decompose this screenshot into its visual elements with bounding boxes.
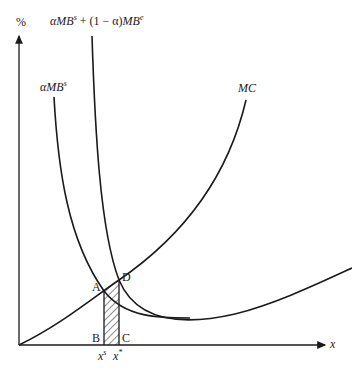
diagram-graphics [0,0,352,374]
combined-mid-text: + (1 − α) [77,14,123,28]
welfare-diagram: % αMBs + (1 − α)MBe αMBs MC A D B C xs x… [0,0,352,374]
mb-text-2: MB [123,14,140,28]
private-mb-curve-label: αMBs [40,81,67,93]
superscript-s: s [64,79,67,88]
x-star-tick-label: x* [113,350,122,362]
social-mb-curve-label: αMBs + (1 − α)MBe [50,15,143,27]
mc-curve [19,100,246,345]
point-b-label: B [92,332,100,344]
superscript-e: e [140,13,144,22]
mb-text: MB [56,14,73,28]
x-axis-label: x [330,338,335,350]
point-a-label: A [92,281,101,293]
x-s-sup: s [103,348,106,357]
point-d-label: D [122,271,131,283]
mb-text: MB [46,80,63,94]
mc-curve-label: MC [238,82,256,94]
x-star-sup: * [118,348,122,357]
social-mb-curve [92,36,352,320]
point-c-label: C [122,332,130,344]
y-axis-label: % [16,16,26,28]
x-s-tick-label: xs [98,350,106,362]
